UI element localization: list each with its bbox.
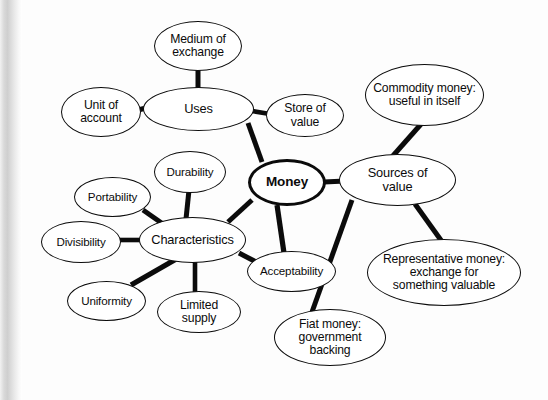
node-uses[interactable]: Uses [143, 87, 254, 131]
node-label-store: Store of value [280, 102, 329, 128]
node-acceptability[interactable]: Acceptability [247, 251, 336, 292]
node-label-representative: Representative money: exchange for somet… [379, 253, 509, 293]
node-store[interactable]: Store of value [266, 94, 344, 137]
connector-uses-to-money [248, 123, 262, 162]
node-label-characteristics: Characteristics [147, 233, 237, 247]
node-label-sources: Sources of value [364, 166, 432, 194]
node-medium[interactable]: Medium of exchange [154, 21, 242, 71]
node-label-commodity: Commodity money: useful in itself [369, 82, 480, 108]
node-label-uniformity: Uniformity [77, 295, 136, 308]
node-commodity[interactable]: Commodity money: useful in itself [365, 64, 484, 126]
node-fiat[interactable]: Fiat money: government backing [274, 309, 386, 366]
node-label-portability: Portability [84, 191, 141, 204]
connector-commodity-to-sources [391, 123, 422, 158]
node-label-fiat: Fiat money: government backing [295, 318, 366, 358]
node-representative[interactable]: Representative money: exchange for somet… [367, 239, 521, 306]
node-divisibility[interactable]: Divisibility [41, 221, 121, 263]
node-label-unit: Unit of account [76, 99, 126, 125]
node-money[interactable]: Money [248, 159, 326, 206]
node-unit[interactable]: Unit of account [61, 87, 141, 137]
connector-money-to-characteristics [228, 200, 252, 222]
node-limited[interactable]: Limited supply [157, 291, 241, 333]
node-uniformity[interactable]: Uniformity [67, 281, 146, 321]
node-label-limited: Limited supply [176, 299, 222, 325]
node-label-acceptability: Acceptability [256, 265, 327, 278]
node-durability[interactable]: Durability [154, 151, 226, 193]
node-label-money: Money [262, 175, 312, 190]
connector-sources-to-representative [415, 204, 443, 243]
node-portability[interactable]: Portability [74, 177, 151, 217]
node-label-durability: Durability [163, 166, 218, 179]
node-label-uses: Uses [180, 102, 217, 116]
node-characteristics[interactable]: Characteristics [139, 217, 246, 263]
connector-uniformity-to-characteristics [131, 258, 178, 285]
connector-money-to-acceptability [277, 205, 284, 253]
node-label-medium: Medium of exchange [166, 33, 230, 59]
node-label-divisibility: Divisibility [52, 236, 109, 249]
mind-map-canvas: MoneyUsesMedium of exchangeUnit of accou… [0, 0, 548, 400]
node-sources[interactable]: Sources of value [339, 154, 456, 206]
connector-durability-to-characteristics [186, 190, 189, 219]
